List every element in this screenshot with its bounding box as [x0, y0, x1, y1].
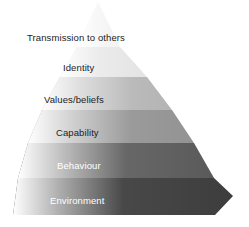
pyramid-level-5-label: Behaviour — [57, 161, 101, 171]
pyramid-level-1-label: Transmission to others — [27, 33, 125, 43]
pyramid-level-4-fade — [28, 110, 194, 143]
pyramid-level-5 — [18, 143, 214, 178]
pyramid-level-2-label: Identity — [63, 63, 94, 73]
pyramid-level-6-label: Environment — [50, 196, 104, 206]
pyramid-diagram: Transmission to others Identity Values/b… — [0, 0, 249, 227]
pyramid-level-6 — [13, 178, 233, 215]
pyramid-level-6-fade — [13, 178, 233, 215]
pyramid-level-5-fade — [18, 143, 214, 178]
pyramid-level-3-label: Values/beliefs — [44, 95, 104, 105]
pyramid-level-4 — [28, 110, 194, 143]
pyramid-level-4-label: Capability — [56, 128, 99, 138]
